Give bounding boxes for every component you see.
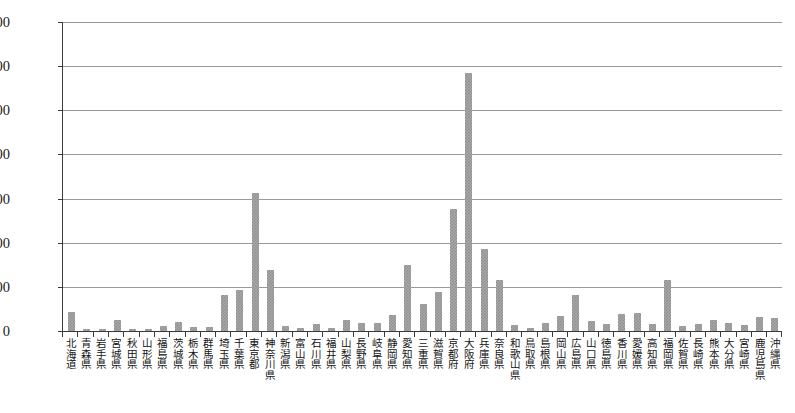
x-axis-label-slot: 宮崎県 <box>736 338 751 410</box>
x-axis-tick <box>62 332 77 337</box>
bar-slot <box>385 22 400 331</box>
bar-slot <box>79 22 94 331</box>
x-axis-tick <box>246 332 261 337</box>
bar <box>710 320 717 331</box>
x-axis-tick <box>613 332 628 337</box>
x-axis-label-slot: 山口県 <box>583 338 598 410</box>
x-axis-tick-label: 滋賀県 <box>432 338 443 370</box>
x-axis-tick <box>185 332 200 337</box>
x-axis-tick-label: 長野県 <box>355 338 366 370</box>
x-axis-tick-label: 岡山県 <box>554 338 565 370</box>
x-axis-tick-label: 愛媛県 <box>631 338 642 370</box>
x-axis-label-slot: 熊本県 <box>705 338 720 410</box>
x-axis-label-slot: 東京都 <box>246 338 261 410</box>
bar-chart: 05,00010,00015,00020,00025,00030,00035,0… <box>0 0 795 413</box>
x-axis-tick-label: 香川県 <box>616 338 627 370</box>
x-axis-tick-label: 富山県 <box>294 338 305 370</box>
x-axis-tick <box>766 332 781 337</box>
x-axis-tick <box>154 332 169 337</box>
bar-slot <box>752 22 767 331</box>
bar <box>252 193 259 331</box>
bar <box>572 295 579 331</box>
bar <box>741 325 748 331</box>
bar <box>527 328 534 331</box>
x-axis-tick <box>460 332 475 337</box>
x-axis-tick <box>200 332 215 337</box>
x-axis-tick-label: 岐阜県 <box>371 338 382 370</box>
x-axis-label-slot: 新潟県 <box>276 338 291 410</box>
bar <box>389 315 396 331</box>
x-axis-label-slot: 高知県 <box>644 338 659 410</box>
bar-slot <box>293 22 308 331</box>
y-axis-tick <box>58 287 63 288</box>
bar-slot <box>202 22 217 331</box>
x-axis-tick <box>751 332 766 337</box>
x-axis-label-slot: 神奈川県 <box>261 338 276 410</box>
bar <box>771 318 778 331</box>
x-axis-tick-label: 佐賀県 <box>677 338 688 370</box>
x-axis-label-slot: 京都府 <box>445 338 460 410</box>
bar <box>542 323 549 331</box>
y-axis-tick-label: 0 <box>0 324 10 339</box>
bar-slot <box>660 22 675 331</box>
y-axis-tick-label: 35,000 <box>0 15 10 30</box>
x-axis-ticks <box>62 332 782 337</box>
y-axis-tick-label: 30,000 <box>0 59 10 74</box>
x-axis-label-slot: 富山県 <box>292 338 307 410</box>
bar <box>206 327 213 331</box>
bar <box>756 317 763 331</box>
bar-slot <box>767 22 782 331</box>
bar <box>374 323 381 331</box>
bar-slot <box>415 22 430 331</box>
x-axis-tick <box>720 332 735 337</box>
x-axis-label-slot: 福井県 <box>322 338 337 410</box>
x-axis-tick <box>552 332 567 337</box>
bar-slot <box>156 22 171 331</box>
x-axis-tick <box>675 332 690 337</box>
x-axis-label-slot: 兵庫県 <box>475 338 490 410</box>
x-axis-tick <box>77 332 92 337</box>
bar-slot <box>140 22 155 331</box>
x-axis-tick-label: 福島県 <box>156 338 167 370</box>
bar-slot <box>247 22 262 331</box>
y-axis-tick <box>58 199 63 200</box>
bar-slot <box>64 22 79 331</box>
x-axis-label-slot: 島根県 <box>537 338 552 410</box>
y-axis-tick-label: 15,000 <box>0 191 10 206</box>
bar-slot <box>400 22 415 331</box>
x-axis-tick <box>506 332 521 337</box>
x-axis-tick-label: 島根県 <box>539 338 550 370</box>
x-axis-tick-label: 徳島県 <box>600 338 611 370</box>
x-axis-tick-label: 福岡県 <box>661 338 672 370</box>
y-axis-tick-label: 5,000 <box>0 280 10 295</box>
bar-slot <box>553 22 568 331</box>
bar <box>175 322 182 331</box>
x-axis-label-slot: 栃木県 <box>185 338 200 410</box>
bar <box>129 329 136 331</box>
x-axis-label-slot: 岡山県 <box>552 338 567 410</box>
x-axis-labels: 北海道青森県岩手県宮城県秋田県山形県福島県茨城県栃木県群馬県埼玉県千葉県東京都神… <box>62 338 782 410</box>
x-axis-tick-label: 神奈川県 <box>263 338 274 381</box>
x-axis-label-slot: 奈良県 <box>491 338 506 410</box>
x-axis-label-slot: 長崎県 <box>690 338 705 410</box>
x-axis-tick-label: 熊本県 <box>707 338 718 370</box>
x-axis-tick-label: 千葉県 <box>233 338 244 370</box>
y-axis-tick <box>58 154 63 155</box>
x-axis-label-slot: 大阪府 <box>460 338 475 410</box>
x-axis-tick-label: 栃木県 <box>187 338 198 370</box>
bar-slot <box>125 22 140 331</box>
bar <box>481 249 488 331</box>
x-axis-label-slot: 岐阜県 <box>368 338 383 410</box>
x-axis-tick <box>629 332 644 337</box>
bar-slot <box>186 22 201 331</box>
bar <box>435 292 442 331</box>
x-axis-tick-label: 奈良県 <box>493 338 504 370</box>
x-axis-tick <box>521 332 536 337</box>
y-axis-tick-label: 20,000 <box>0 147 10 162</box>
y-axis-tick-label: 10,000 <box>0 235 10 250</box>
x-axis-tick <box>215 332 230 337</box>
x-axis-label-slot: 和歌山県 <box>506 338 521 410</box>
bar <box>297 328 304 331</box>
bar <box>282 326 289 331</box>
x-axis-tick <box>491 332 506 337</box>
